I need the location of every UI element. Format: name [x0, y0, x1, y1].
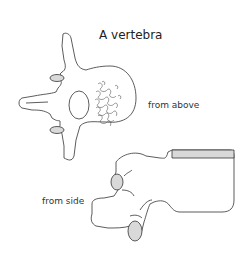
vertebra-side-view [91, 150, 234, 241]
cancellous-bone-texture [95, 81, 121, 126]
vertebra-top-view [19, 33, 136, 160]
vertebra-illustration [0, 0, 249, 254]
